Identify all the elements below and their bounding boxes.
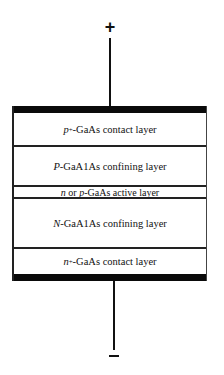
top-wire (109, 38, 111, 107)
layer-label-prefix: N (53, 218, 60, 229)
layer-label: -GaAs contact layer (73, 124, 157, 135)
bottom-metal-contact (14, 274, 206, 281)
layer-label: -GaAs contact layer (73, 256, 157, 267)
plus-sign-icon: + (100, 17, 120, 37)
layer-n-contact: n+-GaAs contact layer (14, 249, 206, 274)
top-metal-contact (14, 106, 206, 113)
layer-n-cladding: N-GaA1As confining layer (14, 199, 206, 247)
layer-stack: p+-GaAs contact layer P-GaA1As confining… (12, 106, 207, 281)
layer-p-contact: p+-GaAs contact layer (14, 113, 206, 146)
layer-p-cladding: P-GaA1As confining layer (14, 147, 206, 186)
bottom-wire (113, 281, 115, 350)
layer-label-prefix: p (63, 124, 68, 135)
layer-label: -GaA1As confining layer (60, 218, 167, 229)
minus-sign-icon (109, 355, 119, 357)
layer-label: -GaA1As confining layer (60, 161, 167, 172)
layer-label-prefix: n (63, 256, 68, 267)
